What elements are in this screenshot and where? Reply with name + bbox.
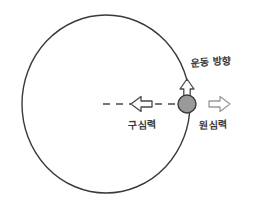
motion-direction-label: 운동 방향: [190, 52, 232, 70]
centrifugal-force-label: 원심력: [199, 116, 227, 132]
centripetal-force-arrow: [131, 97, 152, 112]
centripetal-force-label: 구심력: [128, 116, 156, 132]
diagram-canvas: [0, 0, 253, 214]
centrifugal-force-arrow: [209, 97, 230, 112]
physics-diagram: 운동 방향 구심력 원심력: [0, 0, 253, 214]
orbiting-ball: [178, 95, 196, 113]
